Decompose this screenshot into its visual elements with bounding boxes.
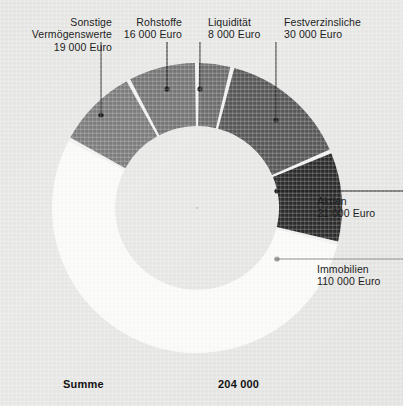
leader-dot-liquiditaet [197,86,202,91]
callout-aktien-name: Aktien [317,195,375,207]
callout-festverzinsliche-value: 30 000 Euro [284,28,361,40]
callout-liquiditaet: Liquidität 8 000 Euro [208,16,260,41]
callout-immobilien-name: Immobilien [317,263,380,275]
center-mark [196,207,198,209]
chart-page: Sonstige Vermögenswerte 19 000 Euro Rohs… [0,0,403,406]
callout-immobilien-value: 110 000 Euro [317,275,380,287]
callout-liquiditaet-name: Liquidität [208,16,260,28]
callout-rohstoffe-name: Rohstoffe [60,16,182,28]
leader-dot-rohstoffe [164,86,169,91]
leader-dot-sonstige [98,112,103,117]
callout-rohstoffe: Rohstoffe 16 000 Euro [60,16,182,41]
callout-immobilien: Immobilien 110 000 Euro [317,263,380,288]
summary-label: Summe [63,378,104,390]
leader-dot-immobilien [274,256,279,261]
callout-aktien-value: 21 000 Euro [317,207,375,219]
callout-aktien: Aktien 21 000 Euro [317,195,375,220]
callout-liquiditaet-value: 8 000 Euro [208,28,260,40]
callout-rohstoffe-value: 16 000 Euro [60,28,182,40]
leader-dot-aktien [274,188,279,193]
summary-row: Summe 204 000 [0,370,403,406]
summary-value: 204 000 [218,378,259,390]
callout-festverzinsliche: Festverzinsliche 30 000 Euro [284,16,361,41]
callout-sonstige-value: 19 000 Euro [0,41,112,53]
callout-festverzinsliche-name: Festverzinsliche [284,16,361,28]
leader-dot-festverzinsliche [273,117,278,122]
